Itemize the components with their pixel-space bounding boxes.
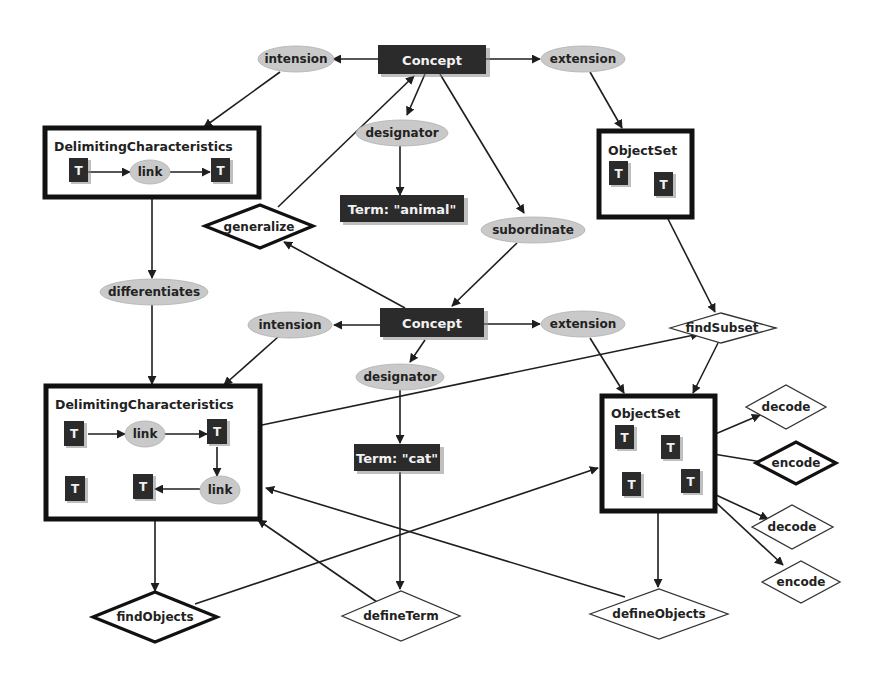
container-delimiting-characteristics-bottom[interactable]: DelimitingCharacteristics T link T T T (46, 386, 260, 519)
relation-designator-top[interactable]: designator (356, 120, 448, 146)
container-objectset-bottom[interactable]: ObjectSet T T T T (602, 396, 715, 511)
os-bottom-title: ObjectSet (611, 406, 680, 421)
relation-link[interactable]: link (130, 160, 170, 184)
edge-concept-subordinate (440, 74, 524, 213)
edge-defineobjects-dc-bottom (266, 488, 625, 597)
relation-extension-top[interactable]: extension (541, 46, 625, 72)
operation-decode-2[interactable]: decode (752, 505, 833, 549)
svg-text:T: T (216, 164, 225, 178)
os-top-title: ObjectSet (608, 143, 677, 158)
edge-subordinate-concept-bottom (452, 243, 517, 306)
token-t[interactable]: T (661, 435, 683, 461)
operation-findsubset[interactable]: findSubset (670, 313, 776, 343)
intension-bottom-label: intension (258, 318, 321, 332)
relation-differentiates[interactable]: differentiates (100, 279, 208, 305)
container-delimiting-characteristics-top[interactable]: DelimitingCharacteristics T link T (45, 128, 259, 197)
token-t[interactable]: T (654, 172, 676, 198)
svg-text:T: T (71, 482, 80, 496)
svg-text:T: T (139, 480, 148, 494)
token-t[interactable]: T (615, 425, 637, 451)
relation-subordinate[interactable]: subordinate (481, 217, 585, 243)
operation-defineobjects[interactable]: defineObjects (590, 589, 728, 639)
edge-findsubset-os-bottom (693, 343, 718, 393)
differentiates-label: differentiates (108, 285, 200, 299)
edge-concept-designator-bottom (410, 340, 425, 362)
token-t[interactable]: T (211, 158, 233, 184)
token-t[interactable]: T (681, 469, 703, 495)
operation-defineterm[interactable]: defineTerm (342, 591, 460, 641)
term-animal-node[interactable]: Term: "animal" (340, 195, 468, 225)
operation-encode-1[interactable]: encode (756, 442, 836, 484)
generalize-label: generalize (224, 220, 295, 234)
relation-link[interactable]: link (200, 476, 240, 504)
intension-top-label: intension (264, 52, 327, 66)
token-t[interactable]: T (69, 158, 91, 184)
svg-text:T: T (213, 425, 222, 439)
designator-top-label: designator (365, 126, 438, 140)
operation-generalize[interactable]: generalize (205, 205, 313, 248)
encode-2-label: encode (777, 575, 826, 589)
svg-text:T: T (620, 431, 629, 445)
concept-top-node[interactable]: Concept (378, 45, 490, 77)
concept-model-diagram: Concept intension extension designator T… (0, 0, 877, 682)
svg-text:T: T (666, 441, 675, 455)
term-animal-label: Term: "animal" (348, 202, 456, 217)
svg-text:T: T (74, 164, 83, 178)
edge-concept-generalize (284, 242, 405, 308)
svg-text:T: T (70, 427, 79, 441)
extension-bottom-label: extension (550, 317, 616, 331)
encode-1-label: encode (772, 456, 821, 470)
defineterm-label: defineTerm (363, 609, 438, 623)
token-t[interactable]: T (622, 472, 644, 498)
concept-top-label: Concept (402, 53, 462, 68)
svg-text:T: T (627, 478, 636, 492)
token-t[interactable]: T (65, 476, 88, 503)
decode-2-label: decode (768, 520, 817, 534)
edge-os-top-findsubset (668, 219, 715, 312)
relation-designator-bottom[interactable]: designator (356, 364, 444, 390)
concept-bottom-node[interactable]: Concept (380, 308, 488, 340)
edge-intension-dc-top (204, 72, 280, 127)
operation-decode-1[interactable]: decode (746, 385, 826, 429)
svg-text:link: link (208, 483, 234, 497)
dc-top-title: DelimitingCharacteristics (54, 139, 233, 154)
svg-text:T: T (614, 167, 623, 181)
svg-text:T: T (659, 178, 668, 192)
operation-findobjects[interactable]: findObjects (93, 592, 217, 642)
operation-encode-2[interactable]: encode (762, 561, 840, 603)
relation-extension-bottom[interactable]: extension (541, 311, 625, 337)
extension-top-label: extension (550, 52, 616, 66)
token-t[interactable]: T (207, 419, 230, 446)
decode-1-label: decode (762, 400, 811, 414)
token-t[interactable]: T (609, 161, 631, 187)
findobjects-label: findObjects (116, 610, 193, 624)
svg-text:link: link (138, 165, 164, 179)
findsubset-label: findSubset (686, 321, 759, 335)
edge-extension-os-top (590, 72, 622, 128)
relation-link[interactable]: link (125, 421, 165, 447)
token-t[interactable]: T (133, 474, 156, 501)
edge-extension-os-bottom (590, 338, 624, 393)
token-t[interactable]: T (64, 421, 87, 448)
term-cat-node[interactable]: Term: "cat" (354, 444, 444, 474)
relation-intension-bottom[interactable]: intension (248, 312, 332, 338)
relation-intension-top[interactable]: intension (258, 46, 334, 72)
concept-bottom-label: Concept (402, 316, 462, 331)
edge-defineterm-dc-bottom (258, 520, 377, 602)
edge-intension-dc-bottom (224, 337, 278, 385)
container-objectset-top[interactable]: ObjectSet T T (599, 131, 692, 217)
designator-bottom-label: designator (363, 370, 436, 384)
dc-bottom-title: DelimitingCharacteristics (55, 397, 234, 412)
svg-text:link: link (133, 427, 159, 441)
term-cat-label: Term: "cat" (356, 451, 438, 466)
svg-text:T: T (686, 475, 695, 489)
defineobjects-label: defineObjects (612, 607, 705, 621)
subordinate-label: subordinate (492, 223, 574, 237)
